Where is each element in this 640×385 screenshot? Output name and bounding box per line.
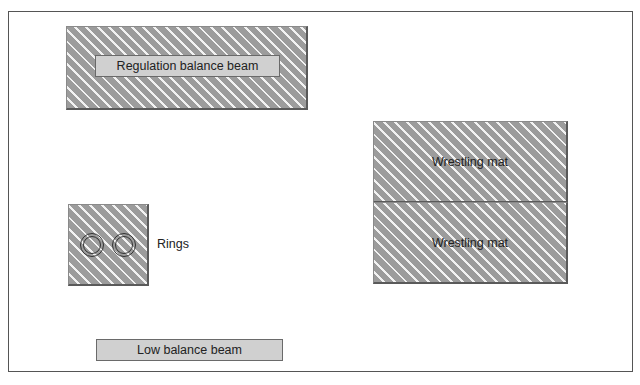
regulation-beam-label: Regulation balance beam [117, 59, 259, 73]
rings-label: Rings [157, 237, 189, 251]
rings-area [68, 204, 149, 286]
wrestling-mat-1: Wrestling mat [373, 121, 568, 203]
low-beam-label: Low balance beam [137, 343, 242, 357]
regulation-beam-area: Regulation balance beam [66, 26, 308, 110]
wrestling-mat-2-label: Wrestling mat [374, 236, 566, 250]
ring-icon [80, 233, 104, 257]
wrestling-mat-1-label: Wrestling mat [374, 155, 566, 169]
low-beam: Low balance beam [96, 339, 283, 361]
ring-icon [112, 233, 136, 257]
regulation-beam: Regulation balance beam [95, 55, 280, 77]
wrestling-mat-2: Wrestling mat [373, 202, 568, 284]
